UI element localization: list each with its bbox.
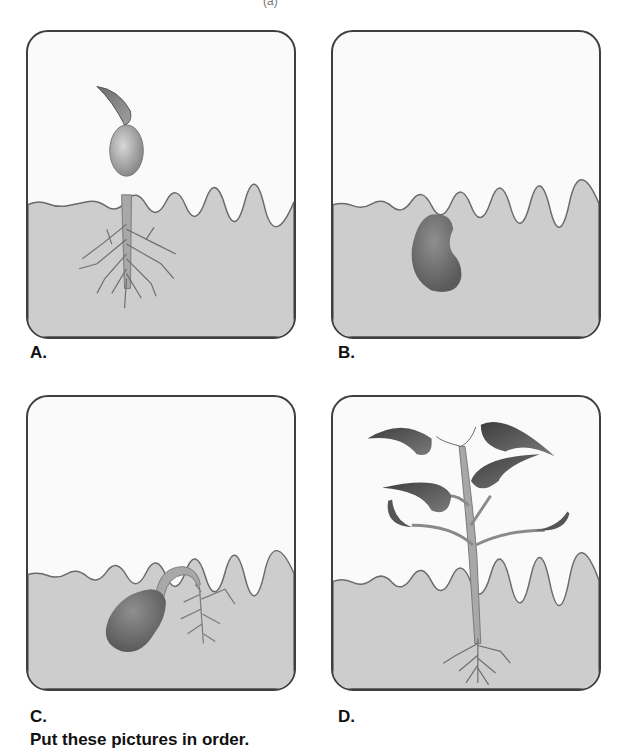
- germinating-seed-illustration: [28, 397, 294, 689]
- panel-a: [26, 30, 296, 339]
- leaf: [367, 428, 431, 455]
- young-plant-illustration: [333, 397, 599, 689]
- panel-label-b: B.: [338, 343, 355, 363]
- cotyledon-leaf: [535, 511, 569, 530]
- seedling-illustration: [28, 32, 294, 337]
- cutoff-text: (a): [263, 0, 278, 8]
- panel-c: [26, 395, 296, 691]
- panel-label-d: D.: [338, 707, 355, 727]
- cotyledon-leaf: [388, 500, 412, 528]
- leaf: [481, 422, 555, 456]
- seed-illustration: [333, 32, 599, 337]
- panel-label-c: C.: [30, 707, 47, 727]
- panel-b: [331, 30, 601, 339]
- panel-label-a: A.: [30, 343, 47, 363]
- leaf: [471, 454, 540, 488]
- panel-d: [331, 395, 601, 691]
- instruction-caption: Put these pictures in order.: [30, 730, 249, 750]
